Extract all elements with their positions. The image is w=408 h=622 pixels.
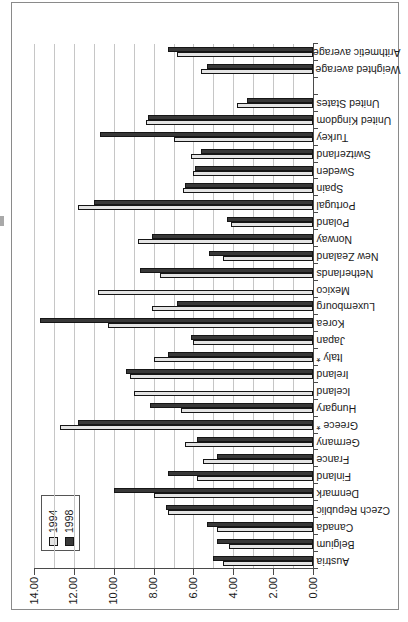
- bar-1998-Germany: [197, 437, 313, 442]
- bar-1994-Turkey: [174, 137, 314, 142]
- category-axis-tick: [314, 145, 318, 146]
- category-axis-tick: [314, 297, 318, 298]
- category-label-japan: Japan: [317, 334, 401, 347]
- category-label-italy-: Italy *: [317, 351, 401, 364]
- bar-1998-Greece *: [78, 420, 313, 425]
- bar-1998-Sweden: [195, 166, 313, 171]
- category-axis-tick: [314, 60, 318, 61]
- category-label-germany: Germany: [317, 435, 401, 448]
- category-label-mexico: Mexico: [317, 283, 401, 296]
- category-label-belgium: Belgium: [317, 537, 401, 550]
- bar-1994-Mexico: [98, 290, 313, 295]
- bar-1994-Netherlands: [160, 273, 313, 278]
- bar-1998-Czech Republic: [166, 505, 313, 510]
- bar-1998-Poland: [227, 217, 313, 222]
- bar-1998-Japan: [191, 335, 313, 340]
- category-axis-tick: [314, 449, 318, 450]
- bar-1998-Italy *: [168, 352, 313, 357]
- category-axis-tick: [314, 534, 318, 535]
- category-axis-tick: [314, 77, 318, 78]
- category-axis-tick: [314, 263, 318, 264]
- category-axis-tick: [314, 229, 318, 230]
- value-axis-label-6.00: 6.00: [187, 577, 200, 617]
- bar-1998-Luxembourg: [177, 302, 313, 307]
- bar-1994-Iceland: [134, 391, 313, 396]
- category-label-switzerland: Switzerland: [317, 148, 401, 161]
- rotated-chart-canvas: 1994 1998 0.002.004.006.008.0010.0012.00…: [0, 0, 408, 622]
- category-axis-tick: [314, 551, 318, 552]
- bar-1994-New Zealand: [223, 256, 313, 261]
- category-axis-tick: [314, 365, 318, 366]
- category-axis-tick: [314, 568, 318, 569]
- category-axis-tick: [314, 517, 318, 518]
- bar-1994-Norway: [138, 239, 313, 244]
- category-label-denmark: Denmark: [317, 486, 401, 499]
- bar-1994-Greece *: [60, 425, 313, 430]
- bar-1994-Germany: [185, 442, 313, 447]
- chart-frame: 1994 1998 0.002.004.006.008.0010.0012.00…: [11, 2, 399, 610]
- bar-1998-Canada: [207, 522, 313, 527]
- value-axis-tick-6.00: [193, 569, 194, 575]
- value-axis-tick-0.00: [313, 569, 314, 575]
- category-label-korea: Korea: [317, 317, 401, 330]
- category-axis-line: [313, 43, 314, 569]
- category-axis-tick: [314, 195, 318, 196]
- category-axis-tick: [314, 348, 318, 349]
- bar-1998-New Zealand: [209, 251, 313, 256]
- bar-1994-Sweden: [193, 171, 313, 176]
- category-axis-tick: [314, 128, 318, 129]
- bar-1998-Arithmetic average: [168, 47, 313, 52]
- bar-1994-Austria: [223, 561, 313, 566]
- category-label-finland: Finland: [317, 469, 401, 482]
- category-axis-tick: [314, 178, 318, 179]
- bar-1998-France: [217, 454, 313, 459]
- bar-1998-Weighted average: [207, 64, 313, 69]
- bar-1994-Canada: [217, 527, 313, 532]
- category-label-weighted-average: Weighted average: [317, 63, 401, 76]
- bar-1994-Czech Republic: [168, 510, 313, 515]
- category-label-turkey: Turkey: [317, 131, 401, 144]
- value-axis-label-2.00: 2.00: [267, 577, 280, 617]
- bar-1998-United Kingdom: [148, 115, 313, 120]
- bar-1994-Luxembourg: [152, 307, 313, 312]
- category-label-new-zealand: New Zealand: [317, 249, 401, 262]
- bar-1998-Korea: [40, 318, 313, 323]
- bar-1998-Portugal: [94, 200, 313, 205]
- gridline-14: [34, 44, 35, 569]
- category-label-united-states: United States: [317, 97, 401, 110]
- value-axis-label-14.00: 14.00: [28, 577, 41, 617]
- legend-swatch-1998: [65, 537, 74, 546]
- category-label-arithmetic-average: Arithmetic average: [317, 46, 401, 59]
- value-axis-tick-14.00: [34, 569, 35, 575]
- bar-1994-Poland: [231, 222, 313, 227]
- category-label-canada: Canada: [317, 520, 401, 533]
- category-label-netherlands: Netherlands: [317, 266, 401, 279]
- bar-1994-Italy *: [154, 357, 313, 362]
- category-axis-tick: [314, 94, 318, 95]
- category-label-portugal: Portugal: [317, 198, 401, 211]
- category-label-czech-republic: Czech Republic: [317, 503, 401, 516]
- bar-1994-France: [203, 459, 313, 464]
- category-label-greece-: Greece *: [317, 419, 401, 432]
- value-axis-tick-8.00: [154, 569, 155, 575]
- value-axis-tick-4.00: [233, 569, 234, 575]
- bar-1998-Ireland: [126, 369, 313, 374]
- gridline-12: [74, 44, 75, 569]
- bar-1994-Portugal: [78, 205, 313, 210]
- bar-1998-Norway: [152, 234, 313, 239]
- category-axis-tick: [314, 466, 318, 467]
- category-axis-tick: [314, 331, 318, 332]
- bar-1994-Spain: [183, 188, 313, 193]
- category-axis-tick: [314, 399, 318, 400]
- bar-1998-Netherlands: [140, 268, 313, 273]
- bar-1994-Denmark: [154, 493, 313, 498]
- category-label-poland: Poland: [317, 215, 401, 228]
- category-label-iceland: Iceland: [317, 385, 401, 398]
- bar-1998-Turkey: [100, 132, 313, 137]
- value-axis-label-12.00: 12.00: [67, 577, 80, 617]
- category-label-ireland: Ireland: [317, 368, 401, 381]
- bar-1994-Korea: [108, 323, 313, 328]
- category-label-spain: Spain: [317, 181, 401, 194]
- bar-1998-Finland: [168, 471, 313, 476]
- scanned-page: 1994 1998 0.002.004.006.008.0010.0012.00…: [0, 0, 408, 622]
